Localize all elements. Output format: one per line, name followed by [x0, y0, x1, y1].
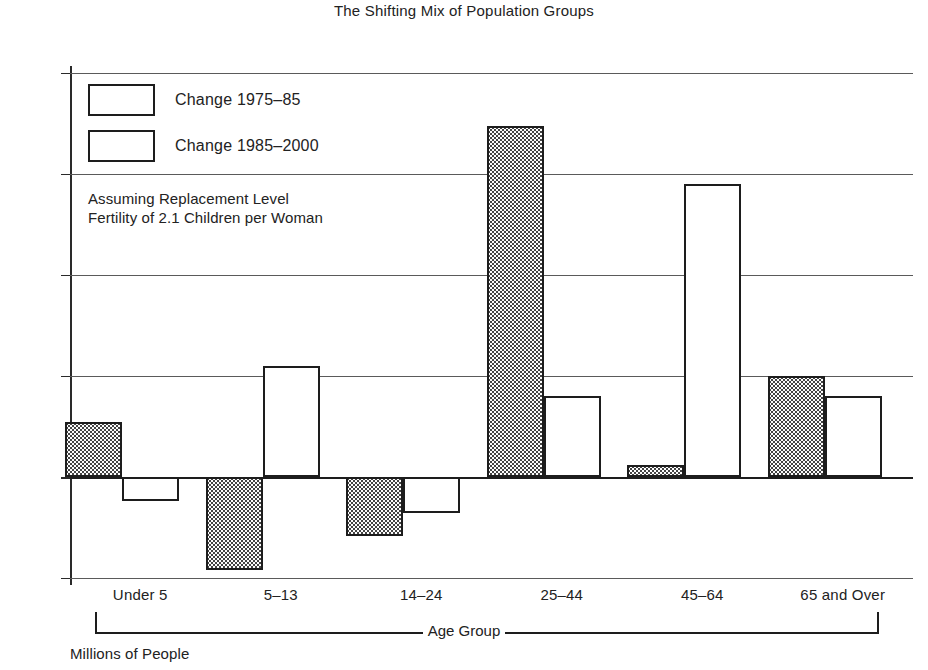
- legend-label-change-1985-2000: Change 1985–2000: [175, 137, 319, 155]
- bar-4-0: [627, 465, 684, 477]
- y-tick-5: [61, 578, 70, 579]
- bar-0-1: [122, 477, 179, 501]
- category-label-1: 5–13: [211, 586, 352, 603]
- chart-annotation: Assuming Replacement Level Fertility of …: [88, 189, 323, 227]
- annotation-line-2: Fertility of 2.1 Children per Woman: [88, 208, 323, 227]
- legend-item-change-1975-85: Change 1975–85: [88, 84, 319, 116]
- gridline-+20: [70, 73, 913, 74]
- legend-swatch-white-icon: [88, 130, 155, 162]
- chart-title: The Shifting Mix of Population Groups: [0, 2, 928, 19]
- y-tick-2: [61, 275, 70, 276]
- y-tick-1: [61, 174, 70, 175]
- bar-2-1: [403, 477, 460, 513]
- bar-1-1: [263, 366, 320, 477]
- annotation-line-1: Assuming Replacement Level: [88, 189, 323, 208]
- bar-2-0: [346, 477, 403, 536]
- category-label-0: Under 5: [70, 586, 211, 603]
- y-tick-4: [61, 477, 70, 479]
- gridline-minus5: [70, 578, 913, 579]
- category-label-4: 45–64: [632, 586, 773, 603]
- bar-5-0: [768, 376, 825, 477]
- gridline-0: [70, 477, 913, 479]
- category-label-3: 25–44: [492, 586, 633, 603]
- bar-1-0: [206, 477, 263, 570]
- y-tick-3: [61, 376, 70, 377]
- y-tick-0: [61, 73, 70, 74]
- legend-swatch-stipple-icon: [88, 84, 155, 116]
- bar-5-1: [825, 396, 882, 477]
- x-axis-label-text: Age Group: [423, 622, 506, 639]
- category-label-2: 14–24: [351, 586, 492, 603]
- chart-legend: Change 1975–85 Change 1985–2000: [88, 84, 319, 176]
- category-label-5: 65 and Over: [773, 586, 914, 603]
- legend-item-change-1985-2000: Change 1985–2000: [88, 130, 319, 162]
- x-axis-label: Age Group: [0, 622, 928, 639]
- bar-4-1: [684, 184, 741, 477]
- bar-3-1: [544, 396, 601, 477]
- y-axis-units-label: Millions of People: [70, 645, 189, 662]
- legend-label-change-1975-85: Change 1975–85: [175, 91, 301, 109]
- bar-0-0: [65, 422, 122, 477]
- bar-3-0: [487, 126, 544, 477]
